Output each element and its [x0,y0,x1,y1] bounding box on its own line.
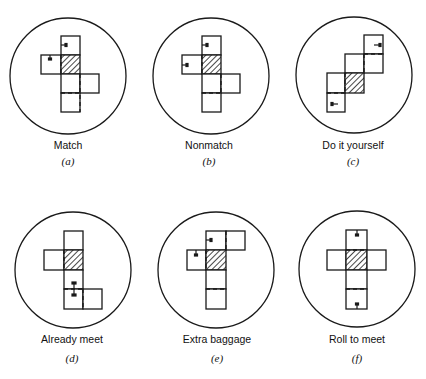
cube-net [182,36,240,112]
panel-e: Extra baggage (e) [158,212,274,365]
cube-net [327,230,386,309]
cube-net [41,36,99,112]
panel-title: Roll to meet [329,333,385,345]
panel-sublabel: (d) [66,352,79,365]
hatched-face [345,73,364,93]
hatched-face [64,250,83,270]
panel-title: Already meet [41,333,103,345]
cube-net-figure: Match (a) Nonmatch (b) [0,0,426,379]
panel-sublabel: (a) [62,155,75,168]
panel-b: Nonmatch (b) [153,18,269,168]
hatched-face [61,55,80,74]
panel-title: Match [54,139,83,151]
cube-net [327,35,383,112]
hatched-face [202,55,221,74]
hatched-face [346,250,367,270]
panel-sublabel: (c) [347,155,360,168]
panel-sublabel: (e) [211,352,224,365]
panel-d: Already meet (d) [15,212,131,365]
cube-net [187,231,245,309]
hatched-face [206,250,226,270]
panel-a: Match (a) [10,18,126,168]
cube-net [44,231,102,309]
panel-title: Do it yourself [322,139,383,151]
panel-title: Extra baggage [183,333,251,345]
panel-f: Roll to meet (f) [299,211,415,365]
panel-sublabel: (f) [352,352,363,365]
panel-c: Do it yourself (c) [296,17,412,168]
panel-title: Nonmatch [185,139,233,151]
panel-sublabel: (b) [203,155,216,168]
